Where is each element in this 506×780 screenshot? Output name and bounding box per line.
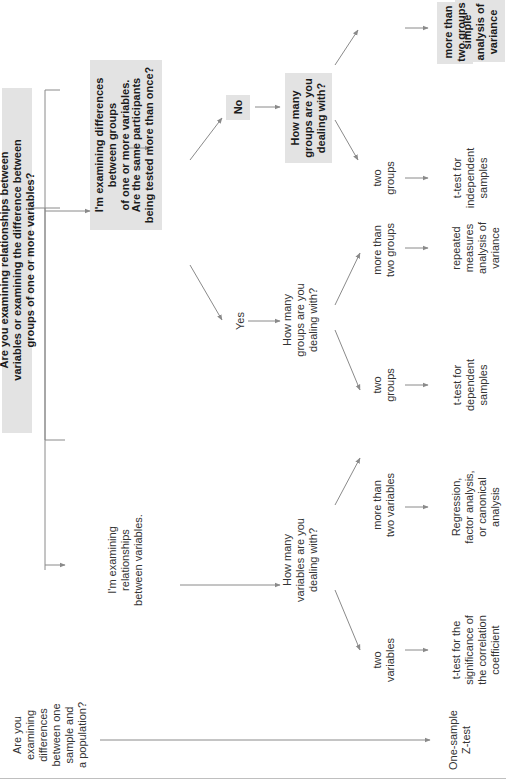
node-one-sample-z-test: One-sampleZ-test — [447, 710, 472, 770]
node-label-line: two — [371, 376, 383, 393]
node-label-line: sample and — [63, 707, 75, 764]
arrow-same-to-no — [190, 118, 222, 160]
node-label-line: groups of one or more variables? — [24, 172, 36, 347]
node-label-line: variables are you — [294, 518, 306, 602]
arrow-same-to-yes — [190, 265, 222, 320]
arrow-groups-yes-to-two — [335, 330, 360, 390]
node-label-line: How many — [289, 90, 301, 146]
bottom-rule — [0, 778, 506, 779]
node-label-line: One-sample — [447, 710, 459, 770]
node-no: No — [232, 99, 244, 114]
node-label-line: of one or more variables. — [119, 80, 131, 211]
node-label-line: between groups — [106, 103, 118, 187]
node-label-line: Are you examining relationships between — [0, 151, 10, 368]
node-label-line: repeated — [450, 226, 462, 269]
statistical-test-flowchart: Are you examining relationships betweenv… — [0, 0, 506, 780]
node-label-line: t-test for — [451, 157, 463, 198]
node-label-line: variables or examining the difference be… — [11, 139, 23, 381]
node-label-line: Are the same participants — [130, 78, 142, 213]
node-label-line: dealing with? — [315, 83, 327, 154]
node-two-variables: twovariables — [371, 637, 396, 682]
node-repeated-anova: repeatedmeasuresanalysis ofvariance — [450, 221, 501, 274]
node-label-line: variables — [384, 637, 396, 682]
node-label-line: samples — [477, 157, 489, 198]
node-label-line: simple — [461, 15, 473, 50]
node-label-line: Are you — [11, 716, 23, 754]
node-label-line: t-test for the — [450, 621, 462, 680]
node-label-line: No — [232, 99, 244, 114]
node-label-line: How many — [281, 534, 293, 586]
node-more-than-two-groups-repeated: more thantwo groups — [371, 223, 396, 277]
node-label-line: more than — [442, 5, 454, 58]
root-connector — [32, 90, 65, 440]
node-t-test-independent: t-test forindependentsamples — [451, 148, 489, 209]
node-label-line: Z-test — [460, 726, 472, 754]
arrow-vars-to-two — [335, 590, 360, 650]
node-two-groups-dependent: twogroups — [371, 368, 396, 402]
node-label-line: dependent — [464, 359, 476, 411]
node-label-line: variance — [489, 227, 501, 269]
node-two-groups-independent: twogroups — [371, 161, 396, 195]
arrow-groups-no-to-two — [335, 120, 358, 160]
node-label-line: groups — [384, 368, 396, 402]
node-label-line: relationships — [119, 529, 131, 591]
node-label-line: between variables. — [132, 514, 144, 606]
node-label-line: independent — [464, 148, 476, 209]
node-label-line: a population? — [76, 702, 88, 768]
node-label-line: more than — [371, 480, 383, 530]
node-label-line: analysis — [489, 487, 501, 527]
node-root: Are you examining relationships betweenv… — [0, 139, 36, 381]
node-label-line: samples — [477, 364, 489, 405]
node-label-line: more than — [371, 225, 383, 275]
node-regression: Regression,factor analysis,or canonicala… — [450, 470, 501, 543]
node-relationships: I'm examiningrelationshipsbetween variab… — [106, 514, 144, 606]
node-how-many-groups-yes: How manygroups are youdealing with? — [281, 283, 319, 356]
node-label-line: examining — [24, 710, 36, 760]
arrow-groups-yes-to-more — [335, 253, 360, 305]
node-more-than-two-variables: more thantwo variables — [371, 472, 396, 537]
node-same-participants: Are the same participantsbeing tested mo… — [130, 66, 155, 223]
node-label-line: Regression, — [450, 478, 462, 537]
node-label-line: How many — [281, 294, 293, 346]
node-label-line: two variables — [384, 472, 396, 537]
node-label-line: groups are you — [302, 78, 314, 157]
node-label-line: analysis of — [474, 3, 486, 60]
node-yes: Yes — [234, 312, 246, 330]
node-label-line: dealing with? — [307, 528, 319, 592]
node-label-line: groups — [384, 161, 396, 195]
node-label-line: variance — [487, 10, 499, 55]
node-label-line: or canonical — [476, 477, 488, 536]
trunk-vertical — [45, 208, 60, 570]
node-label-line: I'm examining differences — [93, 78, 105, 213]
node-label-line: being tested more than once? — [143, 66, 155, 223]
node-label-line: two groups — [384, 223, 396, 277]
node-label-line: I'm examining — [106, 526, 118, 594]
node-label-line: two — [371, 169, 383, 186]
node-label-line: between one — [50, 704, 62, 767]
node-label-line: significance of — [463, 614, 475, 685]
node-label-line: the correlation — [476, 615, 488, 685]
node-label-line: two — [371, 651, 383, 668]
arrow-groups-no-to-more — [335, 30, 358, 65]
node-how-many-variables: How manyvariables are youdealing with? — [281, 518, 319, 602]
node-label-line: Yes — [234, 312, 246, 330]
node-one-sample-question: Are youexaminingdifferencesbetween onesa… — [11, 702, 88, 768]
node-label-line: t-test for — [451, 364, 463, 405]
arrow-vars-to-more — [335, 458, 360, 505]
node-label-line: dealing with? — [307, 288, 319, 352]
node-t-test-correlation: t-test for thesignificance ofthe correla… — [450, 614, 501, 685]
node-label-line: differences — [37, 708, 49, 762]
node-label-line: measures — [463, 223, 475, 272]
node-label-line: analysis of — [476, 221, 488, 274]
node-label-line: factor analysis, — [463, 470, 475, 543]
node-label-line: coefficient — [489, 625, 501, 674]
node-label-line: groups are you — [294, 283, 306, 356]
node-t-test-dependent: t-test fordependentsamples — [451, 359, 489, 411]
